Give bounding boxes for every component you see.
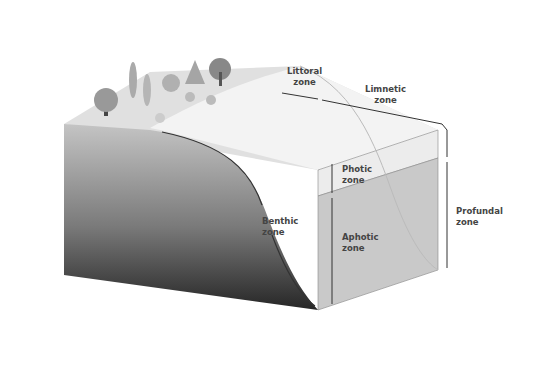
photic-zone-label: Photic zone (342, 164, 372, 186)
limnetic-zone-label: Limnetic zone (365, 84, 406, 106)
aphotic-zone-label: Aphotic zone (342, 232, 379, 254)
littoral-zone-label: Littoral zone (287, 66, 322, 88)
benthic-zone-label: Benthic zone (262, 216, 298, 238)
lake-zones-diagram: Littoral zone Limnetic zone Photic zone … (0, 0, 541, 367)
profundal-zone-label: Profundal zone (456, 206, 503, 228)
lake-cross-section (0, 0, 541, 367)
